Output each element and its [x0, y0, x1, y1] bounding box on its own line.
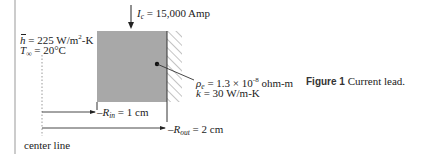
center-line-label: center line	[24, 139, 70, 151]
ambient-temperature-label: T∞ = 20°C	[20, 44, 66, 60]
figure-caption: Figure 1 Current lead.	[306, 75, 405, 87]
outer-radius-label: –Rout = 2 cm	[168, 123, 223, 139]
figure-title: Current lead.	[348, 75, 405, 87]
figure-number: Figure 1	[306, 76, 345, 87]
inner-radius-label: –Rin = 1 cm	[97, 106, 148, 122]
hatched-wall	[167, 31, 182, 102]
lead-body	[97, 31, 167, 102]
current-label: Ic = 15,000 Amp	[137, 7, 210, 23]
conductivity-label: k = 30 W/m-K	[196, 87, 260, 99]
